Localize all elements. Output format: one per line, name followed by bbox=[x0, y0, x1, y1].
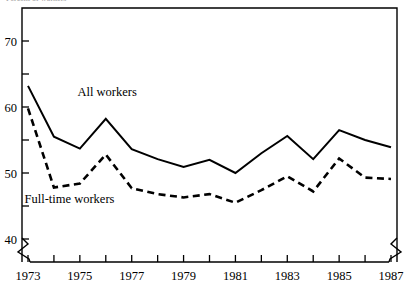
line-chart-canvas: 70605040 1973197519771979198119831985198… bbox=[0, 0, 412, 297]
y-axis-tick-labels: 70605040 bbox=[5, 35, 18, 247]
x-axis-ticks bbox=[28, 255, 391, 262]
y-tick-label-50: 50 bbox=[5, 167, 18, 181]
plot-frame bbox=[22, 8, 397, 262]
cutoff-header-text: Percent of workers bbox=[6, 0, 156, 4]
axis-break-right bbox=[389, 238, 401, 262]
x-tick-label-1981: 1981 bbox=[223, 269, 248, 283]
axis-break-left bbox=[18, 238, 30, 262]
x-tick-label-1983: 1983 bbox=[275, 269, 300, 283]
y-tick-label-70: 70 bbox=[5, 35, 18, 49]
x-tick-label-1979: 1979 bbox=[171, 269, 196, 283]
x-tick-label-1987: 1987 bbox=[379, 269, 404, 283]
chart-figure: Percent of workers 70605040 197319751977… bbox=[0, 0, 412, 297]
series-line-full-time-workers bbox=[28, 108, 391, 202]
data-series-lines bbox=[28, 86, 391, 203]
series-label-all-workers: All workers bbox=[77, 85, 136, 99]
y-tick-label-40: 40 bbox=[5, 233, 18, 247]
series-label-full-time-workers: Full-time workers bbox=[25, 192, 115, 206]
x-tick-label-1985: 1985 bbox=[327, 269, 352, 283]
x-tick-label-1973: 1973 bbox=[16, 269, 41, 283]
y-axis-ticks bbox=[22, 41, 29, 239]
y-tick-label-60: 60 bbox=[5, 101, 18, 115]
x-axis-tick-labels: 19731975197719791981198319851987 bbox=[16, 269, 404, 283]
x-tick-label-1975: 1975 bbox=[67, 269, 92, 283]
x-tick-label-1977: 1977 bbox=[119, 269, 144, 283]
